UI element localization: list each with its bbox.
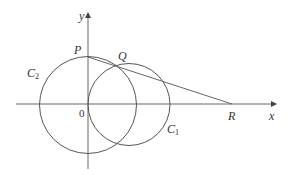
point-q-label: Q bbox=[118, 50, 127, 62]
circle-c2-label-text: C bbox=[27, 66, 35, 80]
circle-c1-subscript: 1 bbox=[175, 128, 179, 137]
diagram-canvas bbox=[0, 0, 293, 179]
point-r-label: R bbox=[228, 110, 235, 122]
point-p-label: P bbox=[74, 44, 81, 56]
circle-c1-label: C1 bbox=[167, 123, 179, 137]
x-axis-label: x bbox=[269, 110, 274, 122]
origin-label: 0 bbox=[79, 108, 85, 119]
diagram-figure: y x 0 P Q R C2 C1 bbox=[0, 0, 293, 179]
y-axis-label: y bbox=[79, 10, 84, 22]
circle-c2-label: C2 bbox=[27, 67, 39, 81]
line-pqr bbox=[88, 57, 232, 104]
circle-c1-label-text: C bbox=[167, 122, 175, 136]
circle-c2-subscript: 2 bbox=[35, 72, 39, 81]
